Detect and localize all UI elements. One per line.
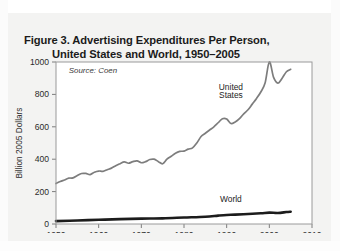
x-tick-label: 1990 xyxy=(217,230,236,233)
page-margin-top xyxy=(0,0,340,13)
series-label-states: States xyxy=(219,90,243,100)
series-label-world: World xyxy=(220,194,242,204)
figure-title-line-1: Figure 3. Advertising Expenditures Per P… xyxy=(24,34,270,46)
page-margin-bottom xyxy=(0,241,340,251)
line-chart: 02004006008001000 1950196019701980199020… xyxy=(0,48,340,233)
y-tick-label: 600 xyxy=(35,122,50,132)
x-tick-label: 1970 xyxy=(132,230,151,233)
x-tick-label: 1980 xyxy=(174,230,193,233)
chart-svg: 02004006008001000 1950196019701980199020… xyxy=(0,48,340,233)
y-tick-label: 1000 xyxy=(30,57,49,67)
x-tick-label: 2010 xyxy=(302,230,321,233)
x-axis-ticks: 1950196019701980199020002010 xyxy=(46,224,321,233)
source-note: Source: Coen xyxy=(69,66,118,75)
y-tick-label: 400 xyxy=(35,154,50,164)
y-axis-label: Billion 2005 Dollars xyxy=(14,107,24,178)
y-axis-ticks: 02004006008001000 xyxy=(30,57,56,229)
x-tick-label: 1960 xyxy=(89,230,108,233)
figure-page: Figure 3. Advertising Expenditures Per P… xyxy=(0,0,340,251)
x-tick-label: 2000 xyxy=(260,230,279,233)
y-tick-label: 800 xyxy=(35,89,50,99)
y-tick-label: 200 xyxy=(35,187,50,197)
x-tick-label: 1950 xyxy=(46,230,65,233)
plot-background xyxy=(56,62,312,224)
y-tick-label: 0 xyxy=(44,219,49,229)
